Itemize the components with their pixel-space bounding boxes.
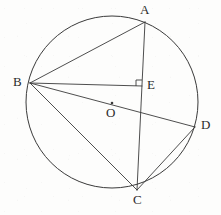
chord-b-c	[30, 83, 137, 190]
chord-a-c	[137, 22, 145, 190]
perpendicular-b-e	[30, 83, 142, 86]
right-angle-mark	[136, 80, 142, 86]
vertex-label-b: B	[13, 75, 22, 88]
chord-c-d	[137, 127, 195, 190]
vertex-label-c: C	[133, 193, 142, 206]
center-point-dot	[111, 102, 114, 105]
geometry-figure: A B C D E O	[0, 0, 221, 215]
vertex-label-o: O	[106, 106, 115, 119]
vertex-label-e: E	[147, 78, 155, 91]
chord-b-a	[30, 22, 145, 83]
vertex-label-a: A	[140, 3, 149, 16]
vertex-label-d: D	[201, 118, 210, 131]
